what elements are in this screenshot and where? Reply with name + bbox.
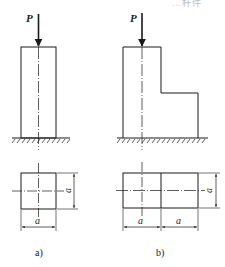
figure-a bbox=[12, 14, 78, 231]
figure-label-b: b) bbox=[156, 247, 164, 259]
diagram-canvas: P a a a) bbox=[0, 0, 225, 267]
load-label-b: P bbox=[130, 12, 137, 24]
ground-hatch-a bbox=[12, 139, 70, 143]
figure-b bbox=[116, 13, 220, 231]
dim-label-a-width: a bbox=[35, 215, 40, 226]
dim-label-b-width-right: a bbox=[176, 215, 181, 226]
ground-hatch-b bbox=[117, 139, 205, 143]
dim-label-b-width-left: a bbox=[138, 215, 143, 226]
dim-label-a-height: a bbox=[62, 188, 73, 193]
column-b-outline bbox=[123, 47, 198, 138]
dim-label-b-height: a bbox=[203, 188, 214, 193]
figure-label-a: a) bbox=[35, 247, 43, 259]
load-label-a: P bbox=[26, 12, 33, 24]
